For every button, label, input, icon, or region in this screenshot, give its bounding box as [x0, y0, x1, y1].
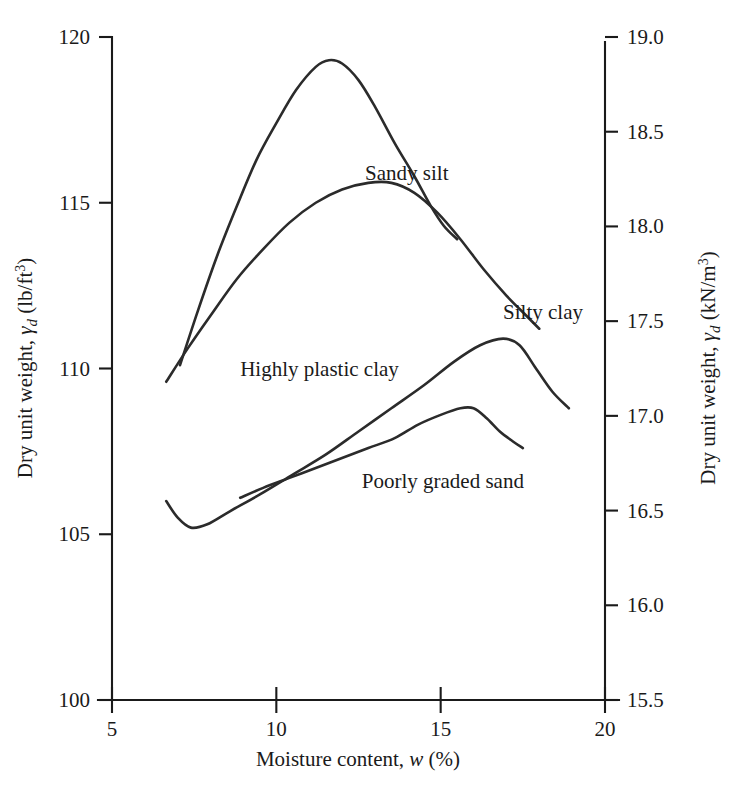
y-left-unit-open: (lb/ft: [13, 272, 37, 314]
y-axis-right-tick-label: 15.5: [627, 688, 664, 712]
y-axis-left-tick-label: 110: [59, 357, 90, 381]
y-left-unit-exponent: 3: [13, 265, 28, 272]
y-axis-right-tick-label: 18.0: [627, 214, 664, 238]
x-axis-title-main: Moisture content,: [256, 747, 404, 771]
tick-labels-group: 10010511011512015.516.016.517.017.518.01…: [59, 25, 664, 741]
y-axis-right-tick-label: 16.0: [627, 593, 664, 617]
y-axis-right-tick-label: 18.5: [627, 120, 664, 144]
curve-silty-clay: [166, 182, 539, 382]
x-axis-tick-label: 5: [107, 717, 118, 741]
y-axis-left-tick-label: 120: [59, 25, 91, 49]
y-left-unit-close: ): [13, 258, 37, 265]
series-labels-group: Sandy siltSilty clayHighly plastic clayP…: [240, 161, 583, 493]
chart-canvas: 10010511011512015.516.016.517.017.518.01…: [0, 0, 741, 790]
curves-group: [166, 60, 569, 528]
series-label-highly-plastic-clay: Highly plastic clay: [240, 357, 399, 381]
compaction-curves-figure: 10010511011512015.516.016.517.017.518.01…: [0, 0, 741, 790]
series-label-poorly-graded-sand: Poorly graded sand: [362, 469, 525, 493]
y-axis-right-tick-label: 17.5: [627, 309, 664, 333]
y-axis-right-tick-label: 16.5: [627, 499, 664, 523]
y-axis-left-tick-label: 100: [59, 688, 91, 712]
x-axis-title-unit: (%): [429, 747, 460, 771]
x-axis-tick-label: 20: [595, 717, 616, 741]
curve-sandy-silt: [180, 60, 457, 365]
x-axis-tick-label: 15: [430, 717, 451, 741]
x-axis-title: Moisture content, w (%): [256, 747, 460, 771]
y-axis-left-tick-label: 105: [59, 522, 91, 546]
y-left-title-main: Dry unit weight,: [13, 340, 37, 478]
x-axis-tick-label: 10: [266, 717, 287, 741]
y-right-unit-close: ): [696, 251, 720, 258]
y-axis-left-tick-label: 115: [59, 191, 90, 215]
y-right-unit-exponent: 3: [696, 258, 711, 265]
series-label-sandy-silt: Sandy silt: [365, 161, 449, 185]
y-right-title-main: Dry unit weight,: [696, 346, 720, 484]
x-axis-title-variable: w: [409, 747, 423, 771]
y-axis-right-tick-label: 19.0: [627, 25, 664, 49]
y-axis-right-tick-label: 17.0: [627, 404, 664, 428]
y-axis-left-title: Dry unit weight, γd (lb/ft3): [13, 258, 40, 479]
y-axis-right-title: Dry unit weight, γd (kN/m3): [696, 251, 723, 484]
series-label-silty-clay: Silty clay: [503, 300, 583, 324]
y-right-unit-open: (kN/m: [696, 265, 720, 320]
